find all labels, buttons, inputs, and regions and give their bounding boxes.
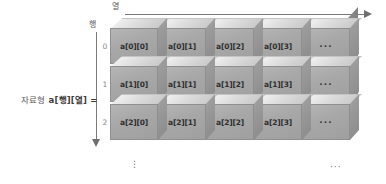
row-index-0: 0 — [100, 42, 110, 51]
row-axis-line — [96, 32, 97, 141]
array-cell-label: ··· — [319, 41, 332, 51]
array-cell-label: a[0][1] — [168, 42, 196, 51]
array-cell-label: a[0][0] — [120, 42, 148, 51]
array-cell-label: ··· — [319, 117, 332, 127]
row-index-1: 1 — [100, 80, 110, 89]
array-diagram: 열 행 자료형 a[행][열] = 0123 012 a[0][0]a[0][1… — [0, 0, 386, 184]
horizontal-ellipsis: ··· — [330, 162, 342, 172]
array-cell: a[2][0] — [110, 104, 158, 140]
array-cell-label: a[1][3] — [264, 80, 292, 89]
column-axis-line — [125, 14, 368, 15]
column-axis-label: 열 — [112, 2, 119, 12]
array-cell-label: a[2][2] — [216, 118, 244, 127]
array-cell-label: a[1][0] — [120, 80, 148, 89]
row-index-2: 2 — [100, 118, 110, 127]
row-axis-arrowhead-icon — [92, 139, 100, 147]
caption-expression: a[행][열] = — [49, 95, 98, 105]
array-cell-label: a[2][1] — [168, 118, 196, 127]
figure-caption: 자료형 a[행][열] = — [21, 93, 98, 105]
vertical-ellipsis: ⋮ — [130, 160, 139, 169]
row-axis-label: 행 — [89, 20, 96, 30]
array-cell-label: a[2][0] — [120, 118, 148, 127]
array-cell-label: a[0][3] — [264, 42, 292, 51]
array-cell-label: a[1][1] — [168, 80, 196, 89]
column-axis-arrowhead-icon — [364, 10, 372, 18]
array-cell-front-face: a[2][0] — [110, 104, 158, 140]
caption-prefix: 자료형 — [21, 95, 46, 105]
array-cell-label: a[0][2] — [216, 42, 244, 51]
array-cell-label: ··· — [319, 79, 332, 89]
array-cell-label: a[2][3] — [264, 118, 292, 127]
array-cell-label: a[1][2] — [216, 80, 244, 89]
array-cell-side-face — [350, 94, 359, 140]
